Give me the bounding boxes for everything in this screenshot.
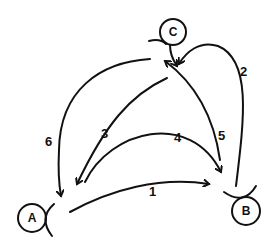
edge-5[interactable]: 5: [165, 61, 225, 160]
edge-1-arrow: [70, 182, 209, 212]
node-b-label: B: [242, 204, 251, 218]
node-b-port-arc: [224, 186, 256, 198]
c-entry-arrow: [170, 45, 177, 66]
node-a-label: A: [28, 211, 37, 225]
edge-2-arrow: [179, 44, 243, 186]
edge-2-label: 2: [240, 64, 247, 79]
diagram-canvas: C A B 2 5 6 3 4 1: [0, 0, 274, 250]
edge-5-label: 5: [218, 128, 225, 143]
edge-2[interactable]: 2: [179, 44, 247, 186]
node-a[interactable]: A: [18, 204, 54, 236]
edge-5-arrow: [165, 61, 220, 160]
edge-1-label: 1: [149, 184, 156, 199]
node-c[interactable]: C: [149, 19, 186, 45]
edge-6-label: 6: [45, 134, 52, 149]
edge-3-label: 3: [101, 126, 108, 141]
node-c-label: C: [169, 25, 178, 39]
edge-3-arrow: [77, 78, 167, 184]
edge-6[interactable]: 6: [45, 59, 150, 196]
edge-1[interactable]: 1: [70, 182, 209, 212]
edge-3[interactable]: 3: [77, 78, 167, 184]
edge-4-label: 4: [174, 130, 182, 145]
node-b[interactable]: B: [224, 186, 260, 225]
